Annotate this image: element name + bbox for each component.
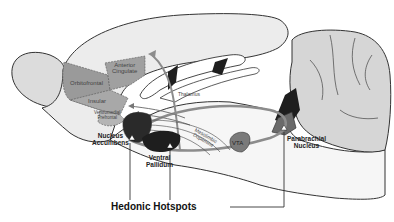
- hedonic-hotspots-callout: Hedonic Hotspots: [111, 202, 197, 212]
- pathway-arrow-insular: [128, 103, 134, 109]
- label-orbitofrontal: Orbitofrontal: [70, 80, 103, 86]
- label-line: Pallidum: [146, 162, 173, 169]
- label-ventral-pallidum: Ventral Pallidum: [146, 155, 173, 168]
- label-thalamus: Thalamus: [178, 92, 200, 97]
- label-vta: VTA: [232, 140, 243, 146]
- label-line: Cingulate: [112, 68, 137, 74]
- brain-illustration: [0, 0, 394, 222]
- label-line: Accumbens: [92, 140, 129, 147]
- label-line: Nucleus: [287, 143, 326, 150]
- cerebellum: [290, 30, 391, 152]
- label-ventromedial: Ventromedial Prefrontal: [94, 111, 120, 120]
- label-line: Prefrontal: [94, 116, 120, 121]
- brain-diagram: Anterior Cingulate Orbitofrontal Insular…: [0, 0, 394, 222]
- label-insular: Insular: [88, 98, 106, 104]
- label-anterior-cingulate: Anterior Cingulate: [112, 62, 137, 74]
- label-nucleus-accumbens: Nucleus Accumbens: [92, 133, 129, 146]
- label-parabrachial: Parabrachial Nucleus: [287, 136, 326, 149]
- ventricle: [168, 65, 178, 90]
